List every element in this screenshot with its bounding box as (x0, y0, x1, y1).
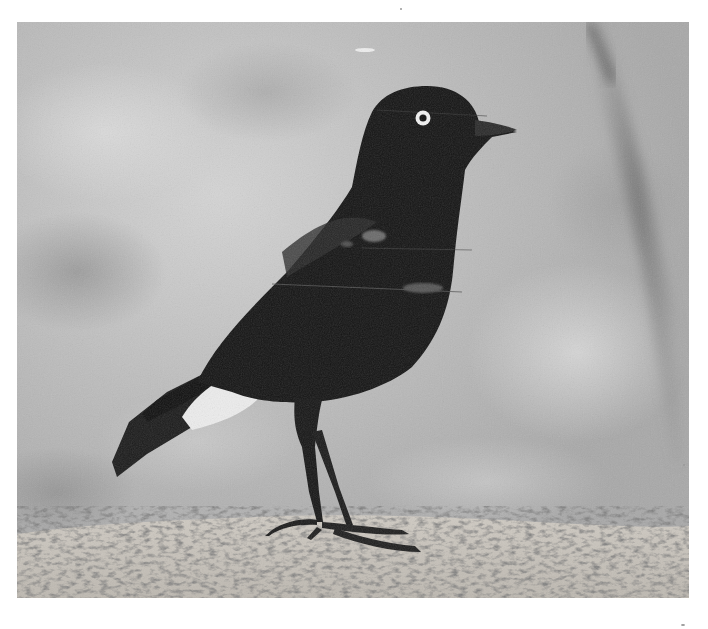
bird-photograph (17, 22, 689, 598)
film-grain (17, 22, 689, 598)
dust-speck (681, 624, 685, 626)
photo-canvas (17, 22, 689, 598)
dust-speck (683, 464, 685, 466)
dust-speck (400, 8, 402, 10)
